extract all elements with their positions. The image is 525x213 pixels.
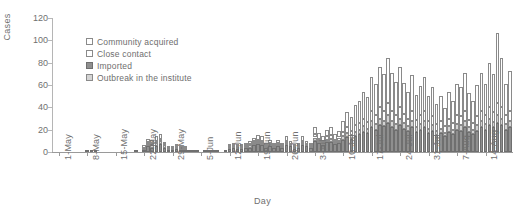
x-tick-label: 1-May: [63, 134, 73, 160]
legend-label: Outbreak in the institute: [97, 73, 192, 83]
x-tick-label: 29-May: [176, 129, 186, 160]
x-tick-label: 10-Jul: [347, 134, 357, 160]
x-tick-mark: [116, 152, 117, 156]
y-tick-mark: [48, 18, 52, 19]
y-tick-label: 0: [14, 148, 48, 157]
y-tick-label: 80: [14, 58, 48, 67]
x-tick-label: 7-Aug: [461, 135, 471, 160]
x-tick-label: 5-Jun: [205, 136, 215, 160]
bar-segment-imported: [134, 150, 138, 152]
legend-item[interactable]: Imported: [86, 60, 192, 71]
legend-item[interactable]: Community acquired: [86, 36, 192, 47]
legend-item[interactable]: Outbreak in the institute: [86, 72, 192, 83]
bar-segment-community: [159, 134, 163, 138]
x-tick-mark: [201, 152, 202, 156]
x-tick-mark: [429, 152, 430, 156]
x-tick-mark: [372, 152, 373, 156]
y-tick-mark: [48, 40, 52, 41]
y-tick-mark: [48, 85, 52, 86]
legend-swatch-imported: [86, 62, 93, 69]
y-axis-line: [52, 18, 53, 152]
x-tick-label: 15-May: [119, 129, 129, 160]
x-tick-mark: [258, 152, 259, 156]
x-tick-mark: [59, 152, 60, 156]
x-tick-label: 24-Jul: [404, 134, 414, 160]
x-tick-label: 17-Jul: [375, 134, 385, 160]
bar-segment-outbreak: [508, 121, 512, 128]
legend-swatch-close: [86, 50, 93, 57]
bar-segment-imported: [508, 127, 512, 152]
y-tick-mark: [48, 107, 52, 108]
x-tick-mark: [87, 152, 88, 156]
legend-item[interactable]: Close contact: [86, 48, 192, 59]
legend-label: Close contact: [97, 49, 151, 59]
x-tick-label: 12-Jun: [233, 131, 243, 160]
y-axis-title: Cases: [2, 0, 12, 57]
x-tick-label: 22-May: [148, 129, 158, 160]
x-tick-mark: [457, 152, 458, 156]
legend-label: Community acquired: [97, 37, 179, 47]
legend-swatch-community: [86, 38, 93, 45]
x-tick-mark: [144, 152, 145, 156]
x-tick-label: 8-May: [91, 134, 101, 160]
bar-segment-community: [508, 71, 512, 111]
x-tick-mark: [230, 152, 231, 156]
bar-segment-imported: [195, 150, 199, 152]
x-tick-mark: [486, 152, 487, 156]
y-tick-label: 40: [14, 103, 48, 112]
y-tick-mark: [48, 152, 52, 153]
bar-segment-close: [159, 139, 163, 141]
y-tick-label: 100: [14, 36, 48, 45]
x-tick-mark: [287, 152, 288, 156]
y-tick-label: 60: [14, 81, 48, 90]
x-tick-mark: [173, 152, 174, 156]
y-axis-tick-labels: 020406080100120: [14, 0, 48, 213]
x-tick-mark: [400, 152, 401, 156]
epidemic-curve-chart: Cases 020406080100120 Day Community acqu…: [0, 0, 525, 213]
bar-segment-imported: [215, 150, 219, 152]
bar-segment-close: [508, 111, 512, 121]
x-tick-label: 19-Jun: [262, 131, 272, 160]
y-tick-label: 120: [14, 14, 48, 23]
legend-label: Imported: [97, 61, 132, 71]
y-tick-mark: [48, 63, 52, 64]
x-tick-label: 3-Jul: [318, 139, 328, 160]
y-tick-mark: [48, 130, 52, 131]
x-tick-label: 14-Aug: [489, 130, 499, 160]
bar-segment-community: [163, 142, 167, 144]
x-axis-title: Day: [0, 196, 525, 206]
y-tick-label: 20: [14, 125, 48, 134]
x-tick-mark: [315, 152, 316, 156]
chart-legend: Community acquiredClose contactImportedO…: [86, 36, 192, 84]
x-tick-label: 31-Jul: [432, 134, 442, 160]
x-tick-mark: [343, 152, 344, 156]
legend-swatch-outbreak: [86, 74, 93, 81]
x-tick-label: 26-Jun: [290, 131, 300, 160]
